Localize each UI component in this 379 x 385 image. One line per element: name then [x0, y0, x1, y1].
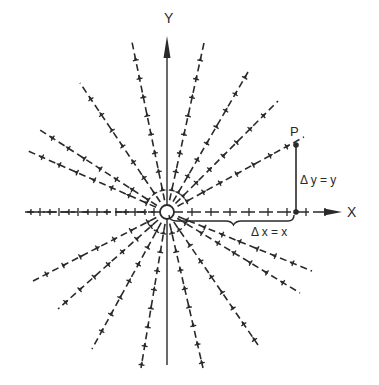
- delta-x-label: Δ x = x: [251, 225, 287, 239]
- field-line: [169, 43, 204, 200]
- arrow-icon: [135, 237, 139, 241]
- arrow-icon: [235, 140, 239, 144]
- x-axis-label: X: [347, 204, 356, 220]
- arrow-icon: [157, 168, 161, 172]
- arrow-icon: [143, 342, 147, 346]
- y-axis-label: Y: [164, 10, 173, 26]
- field-line: [139, 224, 167, 368]
- field-line: [92, 223, 161, 349]
- field-line: [132, 42, 166, 200]
- foot-point-dot: [293, 209, 299, 215]
- field-line: [178, 137, 304, 206]
- point-p-dot: [293, 142, 299, 148]
- arrow-icon: [152, 286, 156, 290]
- origin-circle-icon: [160, 205, 174, 219]
- field-line: [80, 83, 160, 202]
- delta-y-label: Δ y = y: [300, 173, 336, 187]
- arrow-icon: [181, 194, 185, 198]
- arrow-icon: [149, 224, 153, 228]
- y-axis-arrow-icon: [164, 36, 171, 58]
- arrow-icon: [142, 93, 146, 97]
- arrow-icon: [93, 274, 97, 278]
- axes: [25, 36, 342, 365]
- field-line: [169, 224, 205, 368]
- arrow-icon: [140, 361, 144, 365]
- y-axis: [164, 36, 171, 365]
- field-line: [58, 220, 158, 309]
- field-line: [174, 222, 258, 345]
- field-line: [173, 72, 248, 202]
- arrow-icon: [153, 149, 157, 153]
- x-axis-arrow-icon: [324, 209, 342, 216]
- field-line: [37, 128, 157, 205]
- field-line: [28, 151, 156, 207]
- point-p-label: P: [290, 124, 299, 139]
- radial-field-diagram: [0, 0, 379, 385]
- field-line: [33, 217, 156, 281]
